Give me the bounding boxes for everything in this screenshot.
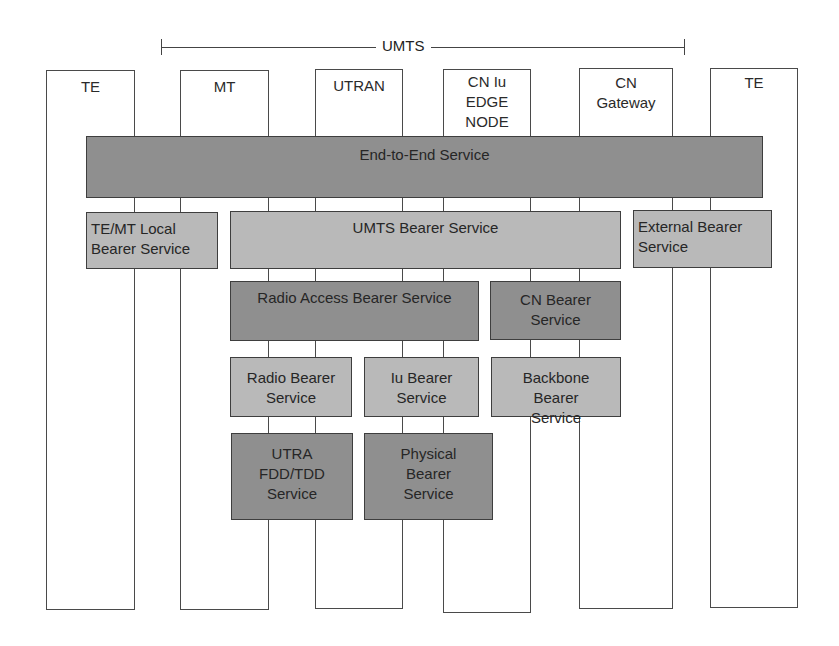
external-bearer-service-label: External Bearer Service — [634, 211, 771, 257]
radio-bearer-service-box: Radio Bearer Service — [230, 357, 352, 417]
end-to-end-service-box: End-to-End Service — [86, 136, 763, 198]
cn-bearer-service-box: CN Bearer Service — [490, 281, 621, 340]
backbone-bearer-service-label: Backbone Bearer Service — [519, 358, 594, 428]
cn-bearer-service-label: CN Bearer Service — [511, 282, 601, 330]
end-to-end-service-label: End-to-End Service — [359, 137, 489, 165]
umts-label: UMTS — [376, 37, 431, 54]
radio-access-bearer-service-box: Radio Access Bearer Service — [230, 281, 479, 341]
umts-bearer-service-label: UMTS Bearer Service — [353, 212, 499, 238]
column-label-te-left: TE — [47, 71, 134, 97]
iu-bearer-service-label: Iu Bearer Service — [382, 358, 462, 408]
physical-bearer-service-label: Physical Bearer Service — [394, 444, 464, 504]
column-label-utran: UTRAN — [316, 70, 402, 96]
iu-bearer-service-box: Iu Bearer Service — [364, 357, 479, 417]
backbone-bearer-service-box: Backbone Bearer Service — [491, 357, 621, 417]
radio-access-bearer-service-label: Radio Access Bearer Service — [257, 282, 451, 308]
te-mt-local-bearer-service-label: TE/MT Local Bearer Service — [87, 213, 217, 259]
te-mt-local-bearer-service-box: TE/MT Local Bearer Service — [86, 212, 218, 269]
column-label-mt: MT — [181, 71, 268, 97]
external-bearer-service-box: External Bearer Service — [633, 210, 772, 268]
radio-bearer-service-label: Radio Bearer Service — [235, 358, 347, 408]
column-label-cn-iu-edge-node: CN Iu EDGE NODE — [444, 70, 530, 132]
utra-fdd-tdd-service-label: UTRA FDD/TDD Service — [252, 444, 332, 504]
utra-fdd-tdd-service-box: UTRA FDD/TDD Service — [231, 433, 353, 520]
umts-bearer-service-box: UMTS Bearer Service — [230, 211, 621, 269]
umts-bracket-right-tick — [684, 39, 685, 55]
column-label-te-right: TE — [711, 69, 797, 93]
column-label-cn-gateway: CN Gateway — [580, 69, 672, 113]
physical-bearer-service-box: Physical Bearer Service — [364, 433, 493, 520]
